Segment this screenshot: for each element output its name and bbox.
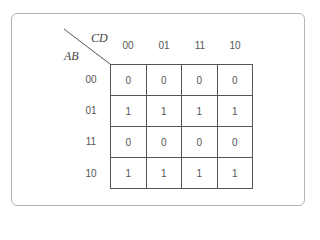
kmap-cell: 0 [111, 127, 147, 158]
kmap-cell: 1 [146, 158, 182, 189]
column-header: 00 [110, 40, 146, 51]
row-header: 00 [76, 64, 106, 95]
kmap-cell: 0 [146, 127, 182, 158]
kmap-cell: 0 [182, 127, 218, 158]
table-row: 1 1 1 1 [111, 158, 253, 189]
karnaugh-map-grid: 0 0 0 0 1 1 1 1 0 0 0 0 1 1 1 1 [110, 64, 253, 189]
table-row: 1 1 1 1 [111, 96, 253, 127]
kmap-cell: 1 [182, 96, 218, 127]
kmap-cell: 0 [111, 65, 147, 96]
column-header: 10 [217, 40, 253, 51]
kmap-cell: 0 [146, 65, 182, 96]
kmap-cell: 1 [111, 158, 147, 189]
kmap-cell: 1 [217, 96, 253, 127]
kmap-cell: 1 [111, 96, 147, 127]
kmap-cell: 1 [146, 96, 182, 127]
kmap-cell: 0 [217, 127, 253, 158]
kmap-cell: 1 [217, 158, 253, 189]
table-row: 0 0 0 0 [111, 127, 253, 158]
row-header: 10 [76, 158, 106, 189]
row-variable-label: AB [64, 49, 79, 64]
table-row: 0 0 0 0 [111, 65, 253, 96]
column-header: 01 [146, 40, 182, 51]
column-variable-label: CD [91, 31, 108, 46]
kmap-cell: 1 [182, 158, 218, 189]
row-header: 11 [76, 126, 106, 157]
kmap-cell: 0 [182, 65, 218, 96]
row-header: 01 [76, 95, 106, 126]
kmap-cell: 0 [217, 65, 253, 96]
column-header: 11 [182, 40, 218, 51]
